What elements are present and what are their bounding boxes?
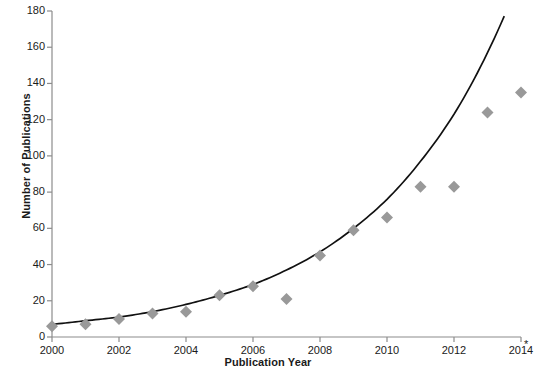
axis-footnote-asterisk: * bbox=[524, 338, 528, 350]
x-axis-ticks bbox=[52, 337, 521, 342]
y-tick-label: 180 bbox=[5, 5, 45, 16]
chart-canvas bbox=[0, 0, 536, 376]
x-tick-label: 2010 bbox=[357, 345, 417, 356]
x-tick-label: 2006 bbox=[223, 345, 283, 356]
x-tick-label: 2008 bbox=[290, 345, 350, 356]
data-point-marker bbox=[314, 250, 326, 262]
data-point-marker bbox=[113, 313, 125, 325]
data-point-marker bbox=[482, 106, 494, 118]
x-axis-title: Publication Year bbox=[0, 356, 536, 368]
data-point-marker bbox=[180, 306, 192, 318]
y-axis-ticks bbox=[47, 11, 52, 337]
y-tick-label: 100 bbox=[5, 150, 45, 161]
data-point-marker bbox=[46, 320, 58, 332]
y-tick-label: 60 bbox=[5, 222, 45, 233]
x-tick-label: 2004 bbox=[156, 345, 216, 356]
data-point-marker bbox=[448, 181, 460, 193]
data-point-markers bbox=[46, 87, 527, 333]
data-point-marker bbox=[381, 211, 393, 223]
publication-trend-chart: Number of Publications Publication Year … bbox=[0, 0, 536, 376]
y-tick-label: 20 bbox=[5, 295, 45, 306]
x-tick-label: 2012 bbox=[424, 345, 484, 356]
axis-lines bbox=[52, 11, 521, 337]
y-tick-label: 80 bbox=[5, 186, 45, 197]
data-point-marker bbox=[515, 87, 527, 99]
x-tick-label: 2014 bbox=[491, 345, 536, 356]
trendline-path bbox=[52, 16, 504, 324]
y-tick-label: 40 bbox=[5, 259, 45, 270]
data-point-marker bbox=[214, 289, 226, 301]
y-tick-label: 120 bbox=[5, 114, 45, 125]
data-point-marker bbox=[415, 181, 427, 193]
y-tick-label: 0 bbox=[5, 331, 45, 342]
y-tick-label: 160 bbox=[5, 41, 45, 52]
x-tick-label: 2002 bbox=[89, 345, 149, 356]
data-point-marker bbox=[147, 307, 159, 319]
y-tick-label: 140 bbox=[5, 77, 45, 88]
data-point-marker bbox=[281, 293, 293, 305]
x-tick-label: 2000 bbox=[22, 345, 82, 356]
